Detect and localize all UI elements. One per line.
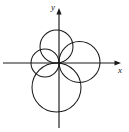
figure-canvas (0, 0, 129, 132)
curve-top-circle (40, 30, 73, 63)
y-axis-label: y (51, 3, 55, 12)
math-figure: y x (0, 0, 129, 132)
curve-right-circle (59, 42, 100, 83)
x-axis-label: x (118, 66, 122, 75)
y-axis-arrowhead (56, 8, 61, 15)
